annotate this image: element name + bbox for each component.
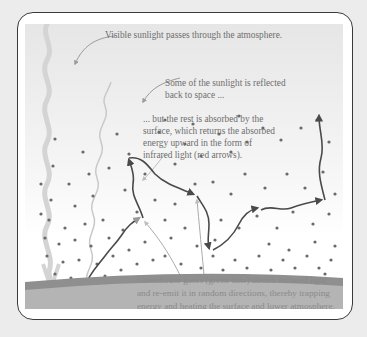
absorbed-label-line-1: ... but the rest is absorbed by the [143,113,263,125]
visible-sunlight-label: Visible sunlight passes through the atmo… [105,29,282,41]
greenhouse-illustration [25,24,343,309]
absorbed-label-line-4: infrared light (red arrows). [143,149,242,161]
greenhouse-label-line-3: energy and heating the surface and lower… [137,300,335,309]
absorbed-label-line-2: surface, which returns the absorbed [143,125,275,137]
diagram-panel: Visible sunlight passes through the atmo… [25,24,343,309]
greenhouse-label-line-1: Greenhouse gases (green dots) absorb inf… [137,274,327,288]
reflected-label-line-1: Some of the sunlight is reflected [165,77,286,89]
greenhouse-label-line-2: and re-emit it in random directions, the… [137,287,330,301]
reflected-label-line-2: back to space ... [165,89,224,101]
incoming-sunlight-band [45,24,51,286]
absorbed-label-line-3: energy upward in the form of [143,137,252,149]
diagram-frame: Visible sunlight passes through the atmo… [17,12,353,320]
